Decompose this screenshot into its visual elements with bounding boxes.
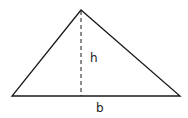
height-label: h — [90, 51, 98, 65]
base-label: b — [96, 101, 104, 115]
triangle-diagram: h b — [0, 0, 188, 118]
